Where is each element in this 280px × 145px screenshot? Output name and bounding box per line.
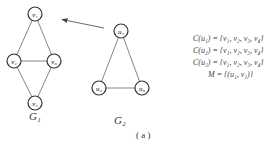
svg-text:v₃: v₃ xyxy=(51,58,57,66)
node-v2: v₂ xyxy=(7,54,21,68)
node-v1: v₁ xyxy=(28,7,42,21)
node-u3: u₃ xyxy=(135,81,149,95)
svg-text:v₄: v₄ xyxy=(32,100,38,108)
svg-text:u₂: u₂ xyxy=(96,85,103,93)
g1-label: G₁ xyxy=(29,110,41,122)
g2-label: G₂ xyxy=(114,114,126,126)
g2-edges xyxy=(99,31,142,88)
node-u2: u₂ xyxy=(92,81,106,95)
node-v3: v₃ xyxy=(47,54,61,68)
figure-caption: ( a ) xyxy=(136,130,151,140)
node-u1: u₁ xyxy=(114,24,128,38)
svg-text:v₁: v₁ xyxy=(32,11,38,19)
equation-cu2: C(u₂) = {v₁, v₂, v₃, v₄} xyxy=(193,46,264,55)
equation-cu1: C(u₁) = {v₁, v₂, v₃, v₄} xyxy=(193,34,264,43)
svg-text:u₃: u₃ xyxy=(139,85,146,93)
node-v4: v₄ xyxy=(28,96,42,110)
equation-m: M = {(u₁, v₁)} xyxy=(208,70,253,79)
svg-text:v₂: v₂ xyxy=(11,58,17,66)
svg-text:u₁: u₁ xyxy=(118,28,124,36)
equation-cu3: C(u₃) = {v₁, v₂, v₃, v₄} xyxy=(193,58,264,67)
mapping-arrow xyxy=(62,20,104,29)
